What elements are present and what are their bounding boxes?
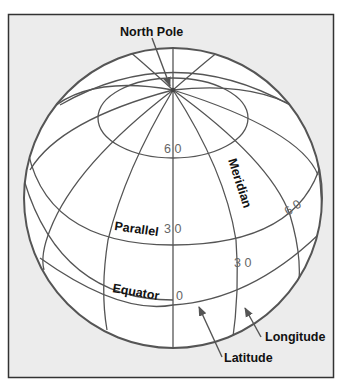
lat-30-number: 3 0 [164, 222, 181, 236]
north-pole-point [171, 88, 175, 92]
lat-0-number: 0 [176, 289, 183, 303]
lon-30-number: 3 0 [234, 256, 251, 270]
longitude-label: Longitude [265, 330, 325, 344]
lat-60-number: 6 0 [164, 142, 181, 156]
latitude-label: Latitude [224, 351, 273, 365]
globe-diagram: North Pole Meridian Parallel Equator Lon… [0, 0, 342, 385]
north-pole-label: North Pole [120, 25, 183, 39]
